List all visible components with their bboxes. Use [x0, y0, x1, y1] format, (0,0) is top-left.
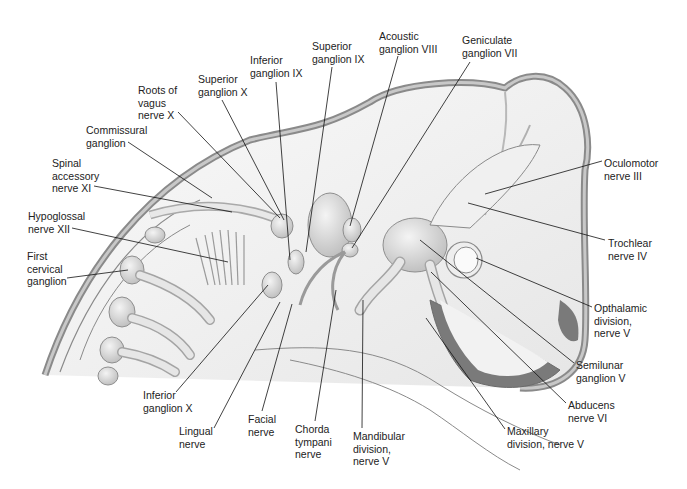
- label-first-cervical-ganglion: First cervical ganglion: [27, 250, 67, 288]
- label-roots-vagus-x: Roots of vagus nerve X: [138, 84, 177, 122]
- label-mandibular-v: Mandibular division, nerve V: [353, 430, 405, 468]
- label-trochlear-iv: Trochlear nerve IV: [608, 237, 652, 262]
- label-abducens-vi: Abducens nerve VI: [568, 399, 615, 424]
- label-inferior-ganglion-x: Inferior ganglion X: [143, 389, 193, 414]
- label-acoustic-ganglion-viii: Acoustic ganglion VIII: [379, 30, 437, 55]
- label-semilunar-ganglion-v: Semilunar ganglion V: [576, 359, 626, 384]
- label-geniculate-ganglion-vii: Geniculate ganglion VII: [462, 34, 517, 59]
- label-superior-ganglion-x: Superior ganglion X: [198, 73, 248, 98]
- label-hypoglossal-xii: Hypoglossal nerve XII: [28, 210, 85, 235]
- label-maxillary-v: Maxillary division, nerve V: [507, 425, 584, 450]
- label-facial-nerve: Facial nerve: [248, 413, 276, 438]
- label-lingual-nerve: Lingual nerve: [179, 425, 213, 450]
- label-chorda-tympani: Chorda tympani nerve: [295, 423, 332, 461]
- label-inferior-ganglion-ix: Inferior ganglion IX: [250, 54, 303, 79]
- label-opthalamic-v: Opthalamic division, nerve V: [594, 302, 647, 340]
- label-spinal-accessory-xi: Spinal accessory nerve XI: [52, 157, 99, 195]
- label-oculomotor-iii: Oculomotor nerve III: [604, 157, 658, 182]
- label-commissural-ganglion: Commissural ganglion: [86, 124, 147, 149]
- label-superior-ganglion-ix: Superior ganglion IX: [312, 40, 365, 65]
